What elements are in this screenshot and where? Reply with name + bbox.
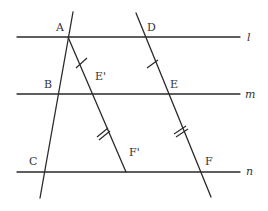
tick-ef-prime-2 bbox=[99, 131, 110, 140]
label-d: D bbox=[147, 21, 156, 34]
label-b: B bbox=[44, 78, 52, 91]
segment-a-fprime bbox=[68, 37, 126, 172]
label-e: E bbox=[170, 78, 178, 91]
label-line-n: n bbox=[246, 165, 253, 178]
parallel-lines-diagram: A B C D E F E' F' l m n bbox=[0, 0, 268, 211]
label-e-prime: E' bbox=[95, 70, 106, 83]
transversal-def bbox=[136, 13, 211, 197]
label-f: F bbox=[205, 155, 213, 168]
label-line-m: m bbox=[245, 88, 255, 101]
label-line-l: l bbox=[247, 31, 251, 44]
label-a: A bbox=[55, 21, 65, 34]
label-c: C bbox=[29, 155, 37, 168]
label-f-prime: F' bbox=[129, 146, 140, 159]
tick-ef-prime-1 bbox=[97, 128, 108, 137]
transversal-abc bbox=[40, 12, 73, 198]
